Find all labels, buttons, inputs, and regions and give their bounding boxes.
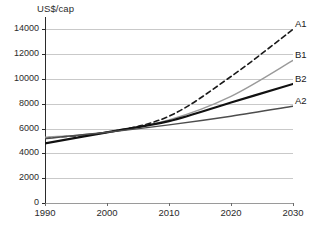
x-tick-label: 2020 — [214, 207, 248, 218]
y-tick-label: 2000 — [5, 172, 39, 182]
y-tick-label: 0 — [5, 197, 39, 207]
series-label-b2: B2 — [295, 73, 307, 84]
series-lines — [45, 17, 293, 203]
x-tick-label: 1990 — [28, 207, 62, 218]
y-axis-unit-label: US$/cap — [37, 3, 74, 14]
y-tick-label: 6000 — [5, 123, 39, 133]
y-tick-label: 8000 — [5, 98, 39, 108]
series-line-a2 — [45, 106, 293, 138]
x-tick-label: 2000 — [90, 207, 124, 218]
x-tick-mark — [169, 203, 170, 206]
x-tick-mark — [45, 203, 46, 206]
series-label-a1: A1 — [295, 18, 307, 29]
figure-caption — [6, 225, 306, 235]
y-tick-label: 4000 — [5, 147, 39, 157]
x-tick-mark — [107, 203, 108, 206]
y-tick-label: 10000 — [5, 73, 39, 83]
chart-figure: US$/cap 02000400060008000100001200014000… — [0, 0, 311, 235]
x-tick-label: 2030 — [276, 207, 310, 218]
series-line-b1 — [45, 60, 293, 137]
x-tick-mark — [293, 203, 294, 206]
x-tick-label: 2010 — [152, 207, 186, 218]
series-label-a2: A2 — [295, 95, 307, 106]
y-tick-label: 14000 — [5, 23, 39, 33]
x-tick-mark — [231, 203, 232, 206]
series-label-b1: B1 — [295, 49, 307, 60]
y-tick-label: 12000 — [5, 48, 39, 58]
